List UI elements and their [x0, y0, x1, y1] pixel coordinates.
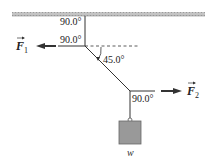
force-f1-arrow [36, 43, 56, 49]
weight-box [119, 121, 141, 144]
angle-label-top-horizontal: 90.0° [60, 34, 82, 45]
force-f2-arrow [161, 88, 182, 94]
weight-label: w [127, 147, 134, 158]
angle-label-diagonal: 45.0° [103, 54, 125, 65]
tension-diagram: F 1 F 2 90.0° 90.0° 45.0° 90.0° w [0, 0, 212, 161]
angle-label-top-vertical: 90.0° [60, 16, 82, 27]
rope-diagonal [85, 46, 130, 91]
svg-text:F: F [186, 84, 195, 98]
force-f2-label: F 2 [186, 82, 199, 101]
svg-text:1: 1 [24, 46, 28, 55]
angle-label-bottom-junction: 90.0° [132, 93, 154, 104]
svg-text:2: 2 [195, 91, 199, 100]
svg-text:F: F [15, 39, 24, 53]
force-f1-label: F 1 [15, 37, 28, 56]
ceiling [12, 12, 205, 16]
